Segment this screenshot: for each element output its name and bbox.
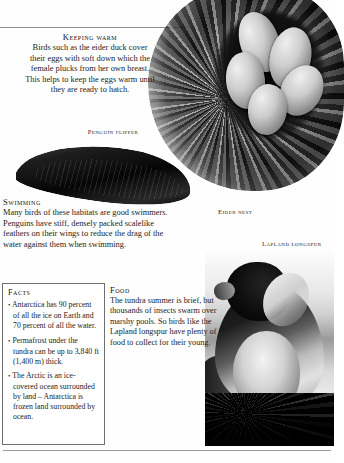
eider-nest-caption: Eider nest: [218, 208, 274, 216]
penguin-flipper-caption: Penguin flipper: [83, 128, 143, 136]
facts-box: Facts • Antarctica has 90 percent of all…: [2, 283, 105, 445]
food-heading: Food: [110, 285, 228, 295]
food-section: Food The tundra summer is brief, but tho…: [110, 285, 228, 348]
bullet-icon: •: [8, 372, 10, 380]
fact-item: • Antarctica has 90 percent of all the i…: [8, 300, 99, 331]
fact-item: • The Arctic is an ice-covered ocean sur…: [8, 371, 99, 422]
fact-text: The Arctic is an ice-covered ocean surro…: [12, 371, 95, 421]
tundra-ground: [205, 393, 334, 446]
keeping-warm-section: Keeping warm Birds such as the eider duc…: [24, 32, 156, 96]
fact-text: Antarctica has 90 percent of all the ice…: [12, 300, 96, 330]
keeping-warm-body: Birds such as the eider duck cover their…: [24, 43, 156, 96]
bullet-icon: •: [8, 301, 10, 309]
fact-item: • Permafrost under the tundra can be up …: [8, 336, 99, 367]
facts-heading: Facts: [8, 288, 99, 298]
swimming-heading: Swimming: [3, 197, 179, 207]
swimming-section: Swimming Many birds of these habitats ar…: [3, 197, 179, 250]
keeping-warm-heading: Keeping warm: [24, 32, 156, 42]
food-body: The tundra summer is brief, but thousand…: [110, 296, 228, 348]
swimming-body: Many birds of these habitats are good sw…: [3, 208, 179, 250]
bottom-divider-rule: [3, 450, 331, 451]
fact-text: Permafrost under the tundra can be up to…: [12, 336, 99, 366]
bullet-icon: •: [8, 337, 10, 345]
